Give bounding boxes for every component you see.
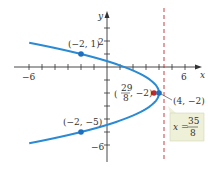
directrix-label-callout: x = 35 8: [168, 106, 204, 141]
x-tick-label-6: 6: [181, 72, 187, 82]
point-label-neg2-1: (−2, 1): [68, 39, 100, 49]
point-label-neg2-neg5: (−2, −5): [63, 117, 102, 127]
y-tick-label-neg6: −6: [91, 142, 105, 152]
svg-text:8: 8: [190, 128, 196, 138]
svg-text:(: (: [114, 89, 118, 99]
vertex-leader-line: [161, 94, 172, 100]
point-neg2-1: [78, 51, 84, 57]
y-axis-arrow-icon: [105, 11, 110, 18]
parabola-chart: x y −6 6 2 −6 (−2, 1) (−2, −5) (4, −2) (…: [0, 0, 215, 172]
svg-text:x =: x =: [173, 122, 188, 132]
x-axis-arrow-icon: [195, 65, 202, 70]
svg-text:, −2): , −2): [130, 88, 153, 98]
svg-text:35: 35: [188, 116, 200, 126]
y-axis: [104, 11, 110, 162]
svg-text:8: 8: [123, 93, 129, 103]
x-tick-label-neg6: −6: [22, 72, 36, 82]
focus-label: ( 29 8 , −2): [114, 83, 153, 103]
vertex-point: [156, 90, 162, 96]
y-axis-label: y: [97, 11, 104, 21]
x-axis: [14, 64, 202, 70]
x-axis-label: x: [200, 70, 205, 80]
point-neg2-neg5: [78, 129, 84, 135]
vertex-label: (4, −2): [173, 96, 205, 106]
